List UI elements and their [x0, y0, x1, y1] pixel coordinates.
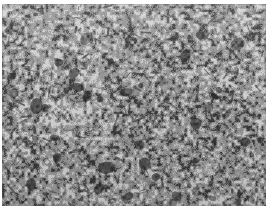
micrograph-panel [2, 4, 266, 206]
figure-root [0, 0, 275, 218]
micrograph-image [2, 4, 266, 206]
